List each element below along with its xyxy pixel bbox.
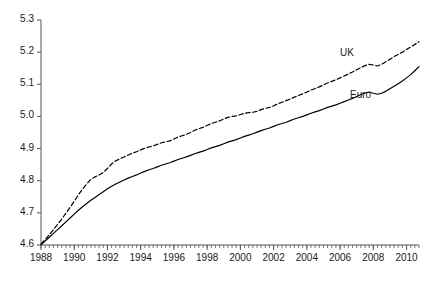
- euro-label: Euro: [350, 89, 371, 100]
- y-axis-tick-label: 4.6: [8, 238, 34, 249]
- uk-label: UK: [340, 47, 354, 58]
- series-line-uk: [41, 42, 419, 244]
- y-axis-tick-label: 4.9: [8, 142, 34, 153]
- y-axis-tick-label: 5.0: [8, 109, 34, 120]
- y-axis-tick-label: 4.7: [8, 206, 34, 217]
- chart-container: 4.64.74.84.95.05.15.25.31988199019921994…: [0, 0, 430, 283]
- y-axis-ticks: [37, 20, 41, 245]
- y-axis-tick-label: 5.1: [8, 77, 34, 88]
- y-axis-tick-label: 5.2: [8, 45, 34, 56]
- axis-lines: [41, 20, 419, 245]
- y-axis-tick-label: 5.3: [8, 13, 34, 24]
- chart-series-group: [41, 42, 419, 245]
- x-axis-tick-label: 2010: [387, 252, 427, 263]
- chart-plot-area: [0, 0, 430, 283]
- y-axis-tick-label: 4.8: [8, 174, 34, 185]
